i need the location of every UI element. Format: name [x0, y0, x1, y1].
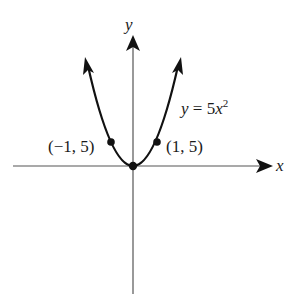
point-origin — [129, 162, 137, 170]
equation-exp: 2 — [223, 97, 229, 109]
equation-eq: = 5 — [189, 99, 216, 118]
point-neg1-5 — [107, 138, 115, 146]
equation-var: x — [215, 99, 223, 118]
y-axis-label: y — [125, 16, 133, 33]
x-axis-label: x — [276, 157, 284, 174]
point-label-neg1-5: (−1, 5) — [48, 138, 94, 155]
equation-lhs: y — [181, 99, 189, 118]
point-label-1-5: (1, 5) — [166, 138, 203, 155]
equation-label: y = 5x2 — [181, 98, 228, 117]
parabola-graph — [0, 0, 290, 299]
point-1-5 — [153, 138, 161, 146]
